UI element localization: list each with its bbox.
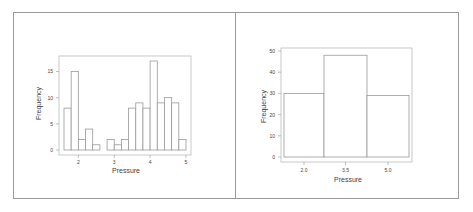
histogram-bar <box>324 55 367 157</box>
y-tick-label: 0 <box>272 154 275 160</box>
histogram-right: 010203040502.03.55.0 <box>0 0 473 212</box>
left-ylabel: Frequency <box>35 87 42 120</box>
y-tick-label: 40 <box>269 69 275 75</box>
right-ylabel: Frequency <box>260 90 267 123</box>
histogram-bar <box>284 93 324 157</box>
left-xlabel: Pressure <box>112 167 140 174</box>
histogram-bar <box>367 96 409 157</box>
y-tick-label: 50 <box>269 48 275 54</box>
x-tick-label: 2.0 <box>301 167 308 173</box>
x-tick-label: 3.5 <box>342 167 349 173</box>
y-tick-label: 20 <box>269 112 275 118</box>
y-tick-label: 30 <box>269 90 275 96</box>
right-xlabel: Pressure <box>334 176 362 183</box>
x-tick-label: 5.0 <box>385 167 392 173</box>
y-tick-label: 10 <box>269 133 275 139</box>
